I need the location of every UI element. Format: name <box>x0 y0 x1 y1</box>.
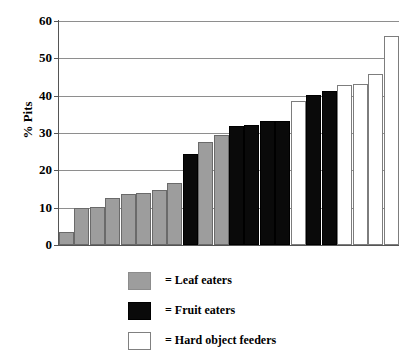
bar-7 <box>152 190 167 245</box>
legend-swatch-leaf <box>128 272 151 290</box>
bar-6 <box>136 193 151 245</box>
legend-label-leaf: = Leaf eaters <box>165 273 232 288</box>
y-axis-tick-mark <box>54 96 59 97</box>
bar-15 <box>275 121 290 245</box>
bar-4 <box>105 198 120 245</box>
bar-20 <box>353 84 368 245</box>
bar-17 <box>306 95 321 245</box>
gridline <box>59 21 399 22</box>
bar-14 <box>260 121 275 245</box>
legend-label-fruit: = Fruit eaters <box>165 303 235 318</box>
bar-5 <box>121 194 136 245</box>
legend-swatch-fruit <box>128 302 151 320</box>
y-axis-tick-mark <box>54 170 59 171</box>
bar-2 <box>74 208 89 245</box>
y-axis-tick-label: 20 <box>24 163 52 176</box>
y-axis-title: % Pits <box>20 85 36 155</box>
bar-18 <box>322 91 337 245</box>
y-axis-tick-labels: 0102030405060 <box>20 0 52 356</box>
bar-9 <box>183 154 198 245</box>
legend-item-leaf: = Leaf eaters <box>128 270 398 298</box>
y-axis-tick-label: 50 <box>24 51 52 64</box>
bar-3 <box>90 207 105 245</box>
chart-legend: = Leaf eaters= Fruit eaters= Hard object… <box>128 270 398 356</box>
bar-16 <box>291 101 306 245</box>
y-axis-tick-label: 60 <box>24 14 52 27</box>
bar-19 <box>337 85 352 245</box>
legend-label-hard: = Hard object feeders <box>165 333 276 348</box>
legend-item-hard: = Hard object feeders <box>128 330 398 356</box>
y-axis-tick-mark <box>54 208 59 209</box>
bar-21 <box>368 74 383 245</box>
bar-chart-figure: 0102030405060 % Pits = Leaf eaters= Frui… <box>0 0 419 356</box>
bar-12 <box>229 126 244 245</box>
y-axis-tick-label: 0 <box>24 238 52 251</box>
x-axis-line <box>58 245 399 246</box>
plot-area <box>59 21 399 245</box>
bar-11 <box>214 135 229 245</box>
bar-13 <box>244 125 259 245</box>
y-axis-tick-mark <box>54 133 59 134</box>
y-axis-tick-mark <box>54 245 59 246</box>
y-axis-tick-mark <box>54 21 59 22</box>
gridline <box>59 58 399 59</box>
bar-22 <box>384 36 399 245</box>
legend-item-fruit: = Fruit eaters <box>128 300 398 328</box>
bar-1 <box>59 232 74 245</box>
bar-8 <box>167 183 182 245</box>
legend-swatch-hard <box>128 332 151 350</box>
bar-10 <box>198 142 213 245</box>
y-axis-tick-mark <box>54 58 59 59</box>
y-axis-tick-label: 10 <box>24 201 52 214</box>
